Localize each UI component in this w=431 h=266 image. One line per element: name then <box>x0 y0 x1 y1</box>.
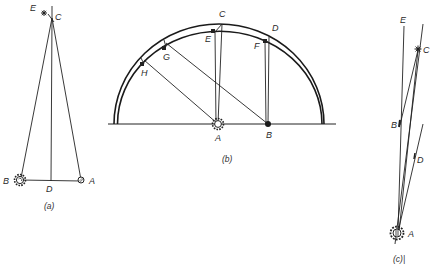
panel-c: E C B D A (c)| <box>391 15 431 264</box>
sun-b-icon <box>15 175 26 186</box>
point-g-marker <box>162 46 166 50</box>
line-a-h <box>144 60 218 124</box>
label-e: E <box>30 3 37 13</box>
line-c-b <box>21 18 52 178</box>
point-d-marker <box>414 153 415 159</box>
point-b-marker <box>399 120 400 127</box>
label-b: B <box>266 130 272 140</box>
label-f: F <box>254 41 260 51</box>
line-c-d <box>51 18 52 181</box>
line-b-a <box>21 180 81 181</box>
line-b-d <box>268 37 269 124</box>
caption-c: (c)| <box>393 254 405 264</box>
caption-b: (b) <box>222 154 233 164</box>
label-d: D <box>272 23 279 33</box>
line-c-a <box>52 18 81 180</box>
caption-a: (a) <box>44 201 55 211</box>
point-b-dot <box>265 121 271 127</box>
label-d: D <box>46 184 53 194</box>
label-c: C <box>423 45 430 55</box>
label-h: H <box>141 68 148 78</box>
label-c: C <box>55 12 62 22</box>
panel-a: E C B D A (a) <box>3 3 95 211</box>
line-a-c <box>218 24 222 124</box>
label-g: G <box>163 52 170 62</box>
label-e: E <box>205 34 212 44</box>
planet-a-icon <box>78 177 84 183</box>
line-b-f <box>265 41 266 124</box>
sun-a-icon <box>213 119 224 130</box>
label-a: A <box>88 176 95 186</box>
astronomy-figure: E C B D A (a) <box>0 0 431 266</box>
panel-b: C D E F G H A B (b) <box>108 9 336 164</box>
label-a: A <box>214 133 221 143</box>
line-a-e <box>215 32 216 124</box>
star-c-icon <box>415 46 422 53</box>
label-d: D <box>417 155 424 165</box>
label-a: A <box>407 229 414 239</box>
point-e-marker <box>211 29 215 33</box>
line-c-a <box>399 50 418 232</box>
label-b: B <box>391 120 397 130</box>
label-c: C <box>219 9 226 19</box>
label-b: B <box>3 176 9 186</box>
line-b-g <box>166 43 268 124</box>
line-a-d <box>398 124 423 232</box>
line-a-e <box>398 26 404 232</box>
label-e: E <box>400 15 407 25</box>
point-f-marker <box>263 39 267 43</box>
star-e-icon <box>41 10 47 16</box>
